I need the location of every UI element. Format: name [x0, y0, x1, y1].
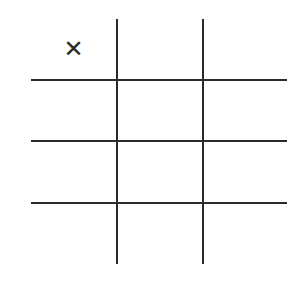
cell-1-1[interactable]	[118, 81, 202, 140]
cell-3-0[interactable]	[31, 204, 116, 264]
cell-1-2[interactable]	[204, 81, 287, 140]
cell-0-1[interactable]	[118, 19, 202, 79]
cell-2-0[interactable]	[31, 142, 116, 202]
game-board: ✕	[0, 0, 301, 282]
cell-1-0[interactable]	[31, 81, 116, 140]
cell-2-1[interactable]	[118, 142, 202, 202]
cell-0-2[interactable]	[204, 19, 287, 79]
cell-3-1[interactable]	[118, 204, 202, 264]
cell-2-2[interactable]	[204, 142, 287, 202]
cell-0-0[interactable]: ✕	[31, 19, 116, 79]
cell-3-2[interactable]	[204, 204, 287, 264]
